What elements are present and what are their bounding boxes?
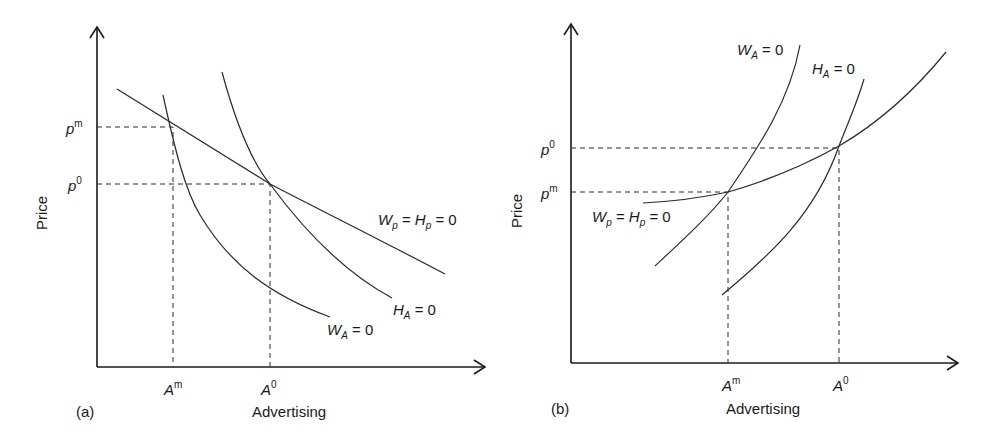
panel-a-label-wp-hp: Wp = Hp = 0 xyxy=(378,212,457,231)
panel-b-ytick-p0: p0 xyxy=(541,140,555,157)
panel-b-dropline-0 xyxy=(571,148,839,363)
panel-a-label-ha: HA = 0 xyxy=(393,302,436,321)
panel-a-dropline-m xyxy=(97,127,173,367)
panel-b-label-ha: HA = 0 xyxy=(812,61,855,80)
panel-a-x-axis-label: Advertising xyxy=(252,404,326,419)
panel-b-curve-wp-hp xyxy=(643,52,946,203)
panel-b-label-wp-hp: Wp = Hp = 0 xyxy=(592,209,671,228)
panel-a-plot xyxy=(90,27,485,374)
panel-a-curve-wp-hp xyxy=(117,89,445,274)
panel-a-dropline-0 xyxy=(97,184,270,367)
panel-b-y-axis-label: Price xyxy=(509,194,524,228)
panel-b-ytick-pm: pm xyxy=(541,184,558,201)
panel-b-xtick-a0: A0 xyxy=(833,376,849,393)
panel-b-tag: (b) xyxy=(551,401,569,416)
panel-b-xtick-am: Am xyxy=(722,376,740,393)
panel-a-ytick-p0: p0 xyxy=(68,176,82,193)
panel-b-plot xyxy=(564,24,958,370)
panel-a-xtick-a0: A0 xyxy=(261,380,277,397)
panel-a-label-wa: WA = 0 xyxy=(327,322,373,341)
panel-a-curve-wa xyxy=(163,95,330,317)
panel-a-xtick-am: Am xyxy=(164,380,182,397)
panel-b-x-axis-label: Advertising xyxy=(726,401,800,416)
panel-a-ytick-pm: pm xyxy=(66,119,83,136)
panel-a-tag: (a) xyxy=(76,404,94,419)
panel-a-y-axis-label: Price xyxy=(34,196,49,230)
panel-b-curve-wa xyxy=(655,45,800,266)
panel-a-curve-ha xyxy=(222,72,392,298)
panel-b-label-wa: WA = 0 xyxy=(737,42,783,61)
